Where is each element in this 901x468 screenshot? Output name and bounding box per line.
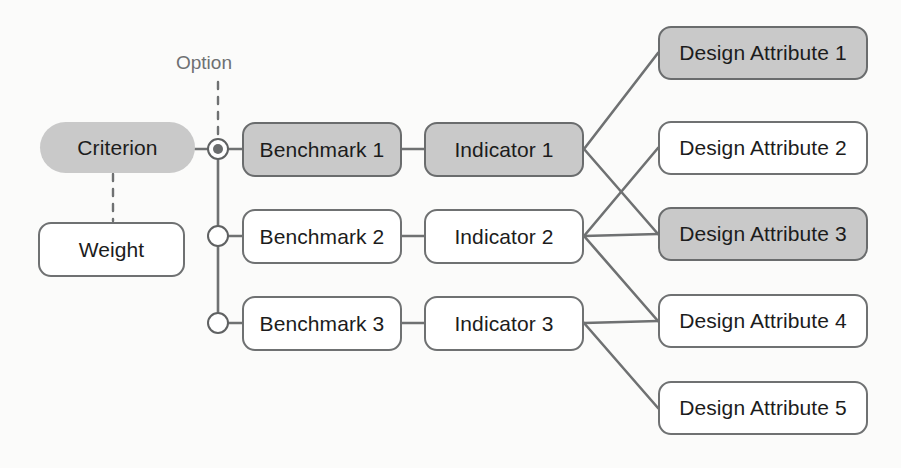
indicator-node-3[interactable]: Indicator 3 [424,296,584,351]
option-radio-3[interactable] [207,312,229,334]
criterion-node[interactable]: Criterion [40,122,195,173]
benchmark-node-2[interactable]: Benchmark 2 [242,209,402,264]
edge-indicator3-da4 [584,321,658,323]
edge-indicator1-da1 [584,53,658,149]
diagram-canvas: Option Criterion Weight Benchmark 1 Benc… [0,0,901,468]
edge-indicator2-da3 [584,234,658,236]
edge-indicator2-da4 [584,236,658,321]
edge-indicator3-da5 [584,323,658,408]
design-attribute-node-1[interactable]: Design Attribute 1 [658,26,868,80]
option-radio-2[interactable] [207,225,229,247]
indicator-node-2[interactable]: Indicator 2 [424,209,584,264]
design-attribute-node-3[interactable]: Design Attribute 3 [658,207,868,261]
benchmark-node-3[interactable]: Benchmark 3 [242,296,402,351]
design-attribute-node-5[interactable]: Design Attribute 5 [658,381,868,435]
option-caption: Option [176,52,232,74]
benchmark-node-1[interactable]: Benchmark 1 [242,122,402,177]
design-attribute-node-2[interactable]: Design Attribute 2 [658,121,868,175]
weight-node[interactable]: Weight [38,222,185,277]
design-attribute-node-4[interactable]: Design Attribute 4 [658,294,868,348]
option-radio-1[interactable] [207,138,229,160]
indicator-node-1[interactable]: Indicator 1 [424,122,584,177]
